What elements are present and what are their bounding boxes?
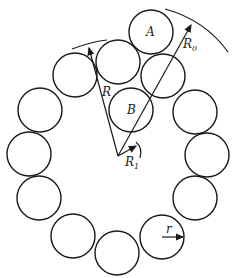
label-r1: R1 xyxy=(124,155,139,171)
circle-top xyxy=(96,40,140,84)
circle-left-1 xyxy=(18,88,62,132)
circle-upper-left xyxy=(53,53,97,97)
label-r: R xyxy=(101,85,111,99)
circle-right-3 xyxy=(173,176,217,220)
circle-bottom xyxy=(95,231,139,275)
label-small-r: r xyxy=(166,222,173,236)
circle-bottom-left xyxy=(51,214,95,258)
radius-lines xyxy=(72,9,228,237)
label-r0: R0 xyxy=(182,37,197,53)
label-a: A xyxy=(145,25,155,39)
packing-diagram: A B R0 R R1 r xyxy=(0,0,235,278)
circle-right-1 xyxy=(173,90,217,134)
r1-arc xyxy=(136,142,141,158)
circle-left-3 xyxy=(17,176,61,220)
circle-right-2 xyxy=(185,133,229,177)
label-b: B xyxy=(126,103,136,117)
r-arrow xyxy=(89,48,118,156)
circle-left-2 xyxy=(7,132,51,176)
